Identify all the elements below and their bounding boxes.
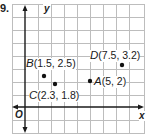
y-axis-label: y bbox=[43, 4, 51, 14]
y-axis-arrow-down-icon bbox=[23, 127, 28, 133]
point-a-coords: (5, 2) bbox=[102, 75, 127, 87]
origin-label: O bbox=[14, 110, 24, 120]
point-a-dot bbox=[88, 79, 92, 83]
x-axis-label: x bbox=[139, 111, 145, 121]
point-c-label: C(2.3, 1.8) bbox=[29, 90, 79, 102]
point-b-coords: (1.5, 2.5) bbox=[34, 57, 76, 69]
point-a-name: A bbox=[94, 75, 102, 87]
y-axis-arrow-up-icon bbox=[23, 5, 28, 11]
x-axis-arrow-right-icon bbox=[138, 105, 144, 110]
point-c-coords: (2.3, 1.8) bbox=[37, 89, 79, 101]
point-a-label: A(5, 2) bbox=[94, 76, 126, 88]
point-b-name: B bbox=[26, 57, 34, 69]
point-b-label: B(1.5, 2.5) bbox=[26, 58, 76, 70]
point-b-dot bbox=[42, 74, 46, 78]
point-d-coords: (7.5, 3.2) bbox=[98, 49, 140, 61]
point-c-dot bbox=[53, 82, 57, 86]
point-d-label: D(7.5, 3.2) bbox=[90, 50, 140, 62]
point-d-dot bbox=[120, 63, 124, 67]
